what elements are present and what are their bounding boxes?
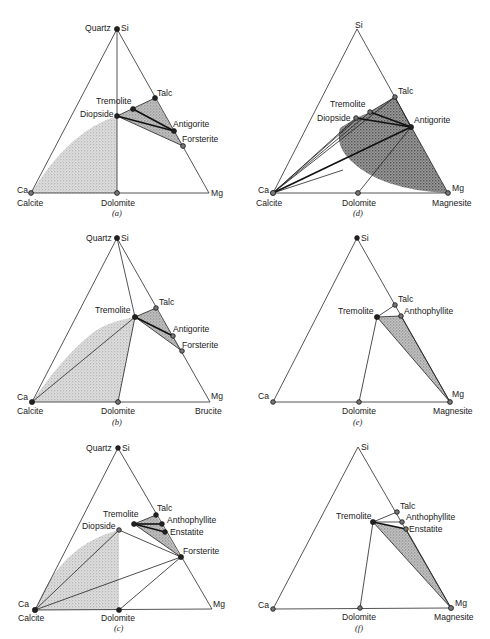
point-antigorite (172, 129, 177, 134)
label-ca: Ca (258, 600, 269, 610)
label-dolomite: Dolomite (342, 612, 376, 622)
panel-e: Si Ca Mg Magnesite Dolomite Tremolite Ta… (258, 233, 473, 427)
label-magnesite: Magnesite (434, 612, 474, 622)
label-quartz: Quartz (86, 443, 112, 453)
label-forsterite: Forsterite (182, 134, 219, 144)
caption-c: (c) (114, 623, 124, 633)
point-magnesite (449, 606, 454, 611)
label-talc: Talc (398, 86, 414, 96)
point-dolomite (115, 191, 120, 196)
label-ca: Ca (18, 599, 29, 609)
label-mg: Mg (213, 599, 225, 609)
tie-line-dolomite-forsterite (119, 557, 181, 610)
tie-line-tremolite-magnesite (373, 522, 451, 608)
label-si: Si (361, 233, 369, 243)
tie-line-dolomite-tremolite (359, 317, 377, 402)
point-tremolite (368, 110, 373, 115)
label-dolomite: Dolomite (342, 406, 376, 416)
label-calcite: Calcite (256, 198, 282, 208)
label-enstatite: Enstatite (170, 527, 204, 537)
point-magnesite (448, 400, 453, 405)
point-calcite (29, 191, 34, 196)
caption-f: (f) (355, 623, 363, 633)
caption-b: (b) (112, 417, 122, 427)
point-antigorite (171, 334, 176, 339)
panel-b: Quartz Si Ca Calcite Mg Brucite Dolomite… (17, 233, 223, 427)
label-talc: Talc (157, 503, 173, 513)
point-dolomite (116, 400, 121, 405)
shaded-region-magnesite-field (339, 97, 448, 193)
label-calcite: Calcite (18, 613, 44, 623)
point-anthophyllite (160, 522, 165, 527)
label-ca: Ca (258, 185, 269, 195)
label-tremolite: Tremolite (330, 99, 366, 109)
label-si: Si (121, 233, 129, 243)
point-dolomite (357, 400, 362, 405)
label-tremolite: Tremolite (338, 306, 374, 316)
label-antigorite: Antigorite (173, 119, 210, 129)
label-talc: Talc (398, 294, 414, 304)
label-mg: Mg (452, 389, 464, 399)
label-tremolite: Tremolite (95, 305, 131, 315)
label-anthophyllite: Anthophyllite (404, 306, 453, 316)
label-talc: Talc (159, 297, 175, 307)
label-talc: Talc (400, 501, 416, 511)
point-quartz (114, 26, 119, 31)
shaded-region-calcite-diopside-dolomite (31, 116, 117, 193)
caption-e: (e) (353, 417, 363, 427)
point-tremolite (131, 107, 136, 112)
point-quartz (114, 235, 119, 240)
point-talc (154, 306, 159, 311)
point-ca (271, 400, 276, 405)
label-mg: Mg (455, 598, 467, 608)
label-si: Si (122, 443, 130, 453)
label-dolomite: Dolomite (101, 198, 135, 208)
label-ca: Ca (258, 391, 269, 401)
label-anthophyllite: Anthophyllite (167, 515, 216, 525)
point-enstatite (404, 527, 409, 532)
point-magnesite (446, 191, 451, 196)
panel-c: Quartz Si Ca Calcite Mg Dolomite Tremoli… (18, 443, 225, 633)
tie-line-tremolite-magnesite (377, 317, 450, 402)
point-anthophyllite (399, 314, 404, 319)
label-antigorite: Antigorite (414, 115, 451, 125)
label-brucite: Brucite (195, 406, 222, 416)
point-calcite (29, 399, 34, 404)
point-ca (271, 607, 276, 612)
label-anthophyllite: Anthophyllite (406, 512, 455, 522)
point-talc (395, 510, 400, 515)
point-dolomite (358, 606, 363, 611)
label-dolomite: Dolomite (101, 613, 135, 623)
point-dolomite (356, 191, 361, 196)
panel-a: Quartz Si Ca Calcite Mg Dolomite Tremoli… (17, 23, 223, 218)
point-forsterite (181, 144, 186, 149)
point-diopside (115, 114, 120, 119)
point-talc (154, 513, 159, 518)
label-magnesite: Magnesite (432, 198, 472, 208)
label-tremolite: Tremolite (96, 96, 132, 106)
tie-line-tremolite-talc (373, 512, 397, 522)
label-quartz: Quartz (86, 233, 112, 243)
label-ca: Ca (17, 185, 28, 195)
ternary-diagram-figure: Quartz Si Ca Calcite Mg Dolomite Tremoli… (0, 0, 490, 639)
panel-d: Si Ca Calcite Mg Magnesite Dolomite Trem… (256, 20, 472, 218)
point-si (355, 236, 360, 241)
triangle-outline (273, 238, 450, 402)
caption-a: (a) (112, 208, 122, 218)
label-dolomite: Dolomite (101, 406, 135, 416)
tie-line-enstatite-magnesite (406, 529, 451, 608)
label-forsterite: Forsterite (182, 340, 219, 350)
label-mg: Mg (211, 391, 223, 401)
point-diopside (354, 116, 359, 121)
label-diopside: Diopside (80, 109, 114, 119)
label-tremolite: Tremolite (336, 511, 372, 521)
label-dolomite: Dolomite (342, 198, 376, 208)
point-talc (393, 303, 398, 308)
point-diopside (117, 528, 122, 533)
point-anthophyllite (400, 520, 405, 525)
point-calcite (270, 190, 275, 195)
label-antigorite: Antigorite (173, 324, 210, 334)
point-quartz (116, 446, 121, 451)
label-si: Si (355, 20, 363, 30)
tie-line-tremolite-talc (377, 305, 395, 317)
